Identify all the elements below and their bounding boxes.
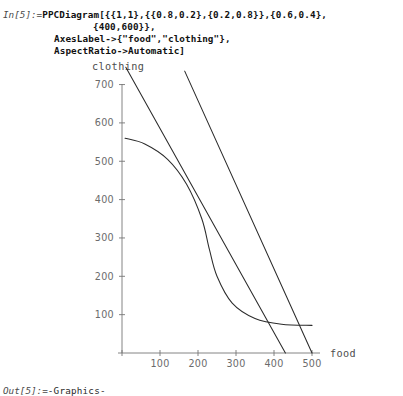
x-tick-label: 400 [264, 358, 283, 369]
code-line-4-text: AspectRatio->Automatic] [3, 45, 185, 56]
y-tick-label: 200 [95, 271, 114, 282]
x-tick-label: 300 [226, 358, 245, 369]
y-tick-label: 700 [95, 79, 114, 90]
y-tick-label: 100 [95, 309, 114, 320]
x-tick-label: 500 [302, 358, 321, 369]
y-axis-ticks: 100200300400500600700 [95, 79, 125, 320]
y-tick-label: 400 [95, 194, 114, 205]
x-axis-label: food [330, 348, 356, 359]
y-axis-label: clothing [92, 61, 144, 72]
curve-production-possibility-frontier [125, 138, 312, 325]
curve-budget-line-steep [126, 67, 286, 353]
output-value-text: -Graphics- [48, 385, 106, 396]
plot-curves [125, 67, 312, 353]
x-tick-label: 100 [150, 358, 169, 369]
y-tick-label: 500 [95, 156, 114, 167]
graphics-output-cell[interactable]: clothing food 100200300400500600700 1002… [0, 56, 403, 376]
x-tick-label: 200 [188, 358, 207, 369]
y-tick-label: 300 [95, 232, 114, 243]
output-prompt-label: Out[5]:= [3, 385, 48, 396]
curve-budget-line-shallow [185, 71, 312, 353]
ppc-diagram-plot[interactable]: clothing food 100200300400500600700 1002… [0, 56, 403, 376]
y-tick-label: 600 [95, 117, 114, 128]
output-cell[interactable]: Out[5]:=-Graphics- [3, 379, 106, 396]
